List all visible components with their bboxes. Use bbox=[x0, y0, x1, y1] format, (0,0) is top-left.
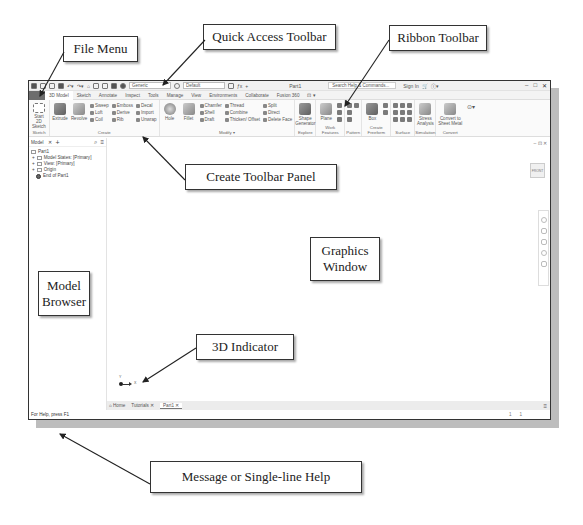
sweep-button[interactable]: Sweep bbox=[90, 103, 109, 108]
sign-in-button[interactable]: Sign In bbox=[403, 83, 419, 89]
tab-more[interactable]: ⊡ ▾ bbox=[303, 91, 319, 100]
circular-pattern-icon[interactable] bbox=[347, 110, 352, 115]
ribbon-options-icon[interactable]: ⊙▾ bbox=[464, 100, 478, 136]
freeform-more-icon[interactable] bbox=[383, 110, 388, 115]
emboss-button[interactable]: Emboss bbox=[112, 103, 133, 108]
redo-icon[interactable]: ↷▾ bbox=[77, 83, 84, 89]
delete-face-button[interactable]: Delete Face bbox=[263, 117, 292, 122]
tab-collaborate[interactable]: Collaborate bbox=[241, 91, 273, 100]
panel-pattern: Pattern bbox=[345, 100, 362, 136]
expand-icon[interactable]: + bbox=[32, 167, 35, 173]
tab-home[interactable]: ⌂ Home bbox=[109, 403, 125, 408]
browser-tab-model[interactable]: Model bbox=[31, 140, 44, 145]
extrude-button[interactable]: Extrude bbox=[52, 101, 68, 129]
cart-icon[interactable]: 🛒 bbox=[422, 83, 428, 89]
tree-node-end-of-part[interactable]: End of Part1 bbox=[31, 173, 104, 179]
axis-icon[interactable] bbox=[337, 103, 342, 108]
new-icon[interactable] bbox=[40, 83, 46, 89]
fillet-button[interactable]: Fillet bbox=[181, 101, 197, 129]
plus-icon[interactable]: + bbox=[245, 83, 248, 89]
replace-face-icon[interactable] bbox=[393, 117, 398, 122]
select-icon[interactable] bbox=[102, 83, 108, 89]
panel-title-modify[interactable]: Modify ▾ bbox=[160, 130, 295, 135]
stitch-icon[interactable] bbox=[393, 103, 398, 108]
boundary-icon[interactable] bbox=[407, 110, 412, 115]
app-menu-icon[interactable] bbox=[31, 83, 37, 89]
browser-menu-icon[interactable]: ≡ bbox=[100, 139, 104, 146]
unwrap-button[interactable]: Unwrap bbox=[136, 117, 157, 122]
tab-part1[interactable]: Part1 ✕ bbox=[160, 403, 182, 409]
steering-wheel-icon[interactable] bbox=[541, 217, 547, 223]
convert-sheet-metal-button[interactable]: Convert to Sheet Metal bbox=[438, 101, 462, 129]
patch-icon[interactable] bbox=[407, 103, 412, 108]
pan-icon[interactable] bbox=[541, 228, 547, 234]
tab-manage[interactable]: Manage bbox=[163, 91, 188, 100]
direct-button[interactable]: Direct bbox=[263, 110, 292, 115]
hole-button[interactable]: Hole bbox=[162, 101, 178, 129]
start-2d-sketch-button[interactable]: Start 2D Sketch bbox=[31, 101, 47, 129]
import-button[interactable]: Import bbox=[136, 110, 157, 115]
thicken-offset-button[interactable]: Thicken/ Offset bbox=[225, 117, 260, 122]
shape-generator-button[interactable]: Shape Generator bbox=[297, 101, 313, 129]
repair-icon[interactable] bbox=[400, 117, 405, 122]
sculpt-icon[interactable] bbox=[400, 103, 405, 108]
extend-icon[interactable] bbox=[400, 110, 405, 115]
help-icon[interactable]: ⓘ▾ bbox=[431, 82, 439, 89]
search-input[interactable]: Search Help & Commands... bbox=[328, 82, 396, 89]
clear-appearance-icon[interactable] bbox=[228, 83, 234, 89]
tab-environments[interactable]: Environments bbox=[205, 91, 241, 100]
viewcube[interactable]: FRONT bbox=[530, 163, 545, 178]
document-tabs-menu-icon[interactable]: ≡ bbox=[543, 403, 550, 409]
tab-3d-model[interactable]: 3D Model bbox=[45, 91, 73, 100]
maximize-button[interactable]: □ bbox=[533, 82, 537, 89]
rectangular-pattern-icon[interactable] bbox=[347, 103, 352, 108]
close-button[interactable]: ✕ bbox=[542, 82, 547, 89]
graphics-window-controls[interactable]: – ⊡ ✕ bbox=[533, 140, 547, 146]
tab-tools[interactable]: Tools bbox=[144, 91, 163, 100]
revolve-button[interactable]: Revolve bbox=[71, 101, 87, 129]
combine-button[interactable]: Combine bbox=[225, 110, 260, 115]
ruled-icon[interactable] bbox=[407, 117, 412, 122]
browser-search-icon[interactable]: ⌕ bbox=[94, 139, 97, 146]
browser-add-icon[interactable]: + bbox=[56, 139, 60, 146]
undo-icon[interactable]: ↶▾ bbox=[67, 83, 74, 89]
minimize-button[interactable]: – bbox=[525, 82, 528, 89]
loft-button[interactable]: Loft bbox=[90, 110, 109, 115]
appearance-select[interactable]: Default bbox=[183, 82, 225, 89]
stress-analysis-button[interactable]: Stress Analysis bbox=[417, 101, 433, 129]
tab-annotate[interactable]: Annotate bbox=[95, 91, 121, 100]
open-icon[interactable] bbox=[49, 83, 55, 89]
material-select[interactable]: Generic bbox=[129, 82, 171, 89]
look-at-icon[interactable] bbox=[541, 261, 547, 267]
measure-icon[interactable] bbox=[111, 83, 117, 89]
zoom-icon[interactable] bbox=[541, 239, 547, 245]
thread-button[interactable]: Thread bbox=[225, 103, 260, 108]
tab-inspect[interactable]: Inspect bbox=[121, 91, 144, 100]
shell-button[interactable]: Shell bbox=[200, 110, 222, 115]
rib-button[interactable]: Rib bbox=[112, 117, 133, 122]
tab-view[interactable]: View bbox=[187, 91, 205, 100]
ucs-icon[interactable] bbox=[337, 117, 342, 122]
draft-button[interactable]: Draft bbox=[200, 117, 222, 122]
fx-icon[interactable]: ƒx bbox=[237, 83, 242, 89]
tab-sketch[interactable]: Sketch bbox=[73, 91, 95, 100]
decal-button[interactable]: Decal bbox=[136, 103, 157, 108]
browser-close-icon[interactable]: ✕ bbox=[48, 140, 52, 145]
trim-icon[interactable] bbox=[393, 110, 398, 115]
save-icon[interactable] bbox=[58, 83, 64, 89]
tab-tutorials[interactable]: Tutorials ✕ bbox=[131, 403, 154, 408]
mirror-icon[interactable] bbox=[354, 103, 359, 108]
freeform-icon[interactable] bbox=[383, 103, 388, 108]
chamfer-button[interactable]: Chamfer bbox=[200, 103, 222, 108]
file-tab[interactable] bbox=[29, 91, 45, 100]
update-icon[interactable] bbox=[93, 83, 99, 89]
home-icon[interactable]: ⌂ bbox=[87, 83, 90, 89]
orbit-icon[interactable] bbox=[541, 250, 547, 256]
tab-fusion-360[interactable]: Fusion 360 bbox=[273, 91, 304, 100]
split-button[interactable]: Split bbox=[263, 103, 292, 108]
coil-button[interactable]: Coil bbox=[90, 117, 109, 122]
point-icon[interactable] bbox=[337, 110, 342, 115]
sketch-pattern-icon[interactable] bbox=[347, 117, 352, 122]
status-bar: For Help, press F1 1 1 bbox=[29, 410, 550, 419]
derive-button[interactable]: Derive bbox=[112, 110, 133, 115]
